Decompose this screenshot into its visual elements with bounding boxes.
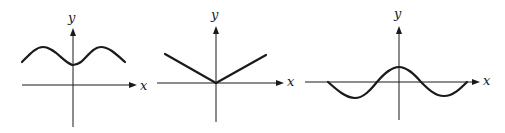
panel-1-y-label: y xyxy=(67,10,76,25)
panel-1-x-label: x xyxy=(140,78,148,93)
panel-2-x-label: x xyxy=(287,74,295,89)
panel-2-y-label: y xyxy=(210,7,219,22)
panel-2-y-arrow-icon xyxy=(213,26,219,34)
panel-3-x-arrow-icon xyxy=(472,79,480,85)
panel-2-graph: y x xyxy=(157,7,295,122)
panel-3-y-label: y xyxy=(393,6,402,21)
panel-1-y-arrow-icon xyxy=(70,28,76,36)
panel-2-x-arrow-icon xyxy=(276,80,284,86)
figure-canvas: y x y x y x xyxy=(0,0,505,133)
panel-3-y-arrow-icon xyxy=(396,26,402,34)
panel-1-graph: y x xyxy=(22,10,148,127)
panel-1-x-arrow-icon xyxy=(129,82,137,88)
panel-3-x-label: x xyxy=(483,73,491,88)
panel-3-graph: y x xyxy=(305,6,491,120)
